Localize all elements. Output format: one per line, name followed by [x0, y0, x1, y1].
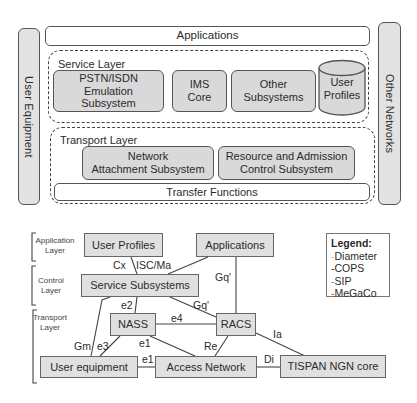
node-applications: Applications	[196, 233, 274, 257]
transport-layer-line-1: Transport	[30, 313, 70, 323]
node-racs: RACS	[216, 313, 256, 336]
legend-item-sip: -SIP	[331, 275, 385, 288]
application-layer-label: Application Layer	[30, 236, 80, 255]
edge-label-cx: Cx	[113, 259, 126, 271]
application-layer-line-1: Application	[30, 236, 80, 246]
edge-label-gq-service: Gq'	[193, 299, 209, 311]
legend-box: Legend: -Diameter -COPS -SIP -MeGaCo	[326, 233, 390, 297]
node-access-network: Access Network	[155, 356, 257, 378]
edge-label-e2: e2	[121, 299, 133, 311]
edge-label-e1-nass: e1	[139, 337, 151, 349]
application-layer-line-2: Layer	[30, 246, 80, 256]
node-user-profiles: User Profiles	[84, 233, 163, 257]
legend-megaco-label: MeGaCo	[335, 287, 377, 299]
legend-title: Legend:	[331, 237, 385, 250]
control-layer-line-1: Control	[30, 276, 72, 286]
legend-item-diameter: -Diameter	[331, 250, 385, 263]
node-user-equipment: User equipment	[40, 356, 138, 378]
transport-layer-label: Transport Layer	[30, 313, 70, 332]
edge-label-ia: Ia	[273, 328, 282, 340]
control-layer-label: Control Layer	[30, 276, 72, 295]
transport-layer-line-2: Layer	[30, 323, 70, 333]
node-service-subsystems: Service Subsystems	[81, 274, 199, 297]
control-layer-line-2: Layer	[30, 286, 72, 296]
legend-diameter-label: Diameter	[335, 250, 378, 262]
node-nass: NASS	[110, 313, 156, 336]
edge-label-isc-ma: ISC/Ma	[136, 259, 171, 271]
edge-label-e4: e4	[171, 312, 183, 324]
edge-label-re: Re	[204, 340, 217, 352]
legend-sip-label: SIP	[335, 275, 352, 287]
legend-item-cops: -COPS	[331, 262, 385, 275]
edge-label-e3: e3	[97, 340, 109, 352]
edge-label-gm: Gm	[74, 340, 91, 352]
legend-item-megaco: -MeGaCo	[331, 287, 385, 300]
edge-label-di: Di	[264, 353, 274, 365]
edge-label-e1-ue: e1	[142, 353, 154, 365]
edge-label-gq-applications: Gq'	[215, 271, 231, 283]
node-tispan-ngn-core: TISPAN NGN core	[280, 355, 386, 378]
legend-cops-label: COPS	[335, 262, 365, 274]
